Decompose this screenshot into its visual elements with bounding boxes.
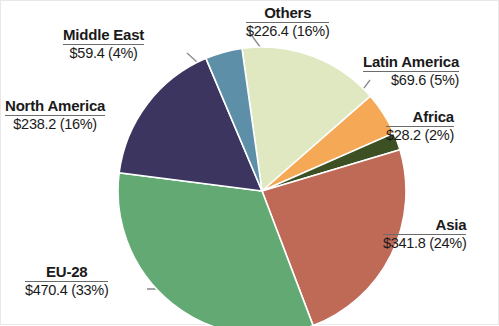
pie-label-latin-america: Latin America $69.6 (5%) xyxy=(363,54,459,89)
pie-label-latin-america-name: Latin America xyxy=(363,54,459,72)
pie-label-middle-east-name: Middle East xyxy=(63,27,144,45)
pie-label-others: Others $226.4 (16%) xyxy=(246,5,329,40)
pie-label-eu-28: EU-28 $470.4 (33%) xyxy=(25,264,108,299)
pie-label-middle-east-value: $59.4 (4%) xyxy=(63,45,144,62)
pie-label-africa: Africa $28.2 (2%) xyxy=(386,109,454,144)
pie-label-eu-28-value: $470.4 (33%) xyxy=(25,282,108,299)
pie-label-asia-value: $341.8 (24%) xyxy=(383,235,466,252)
pie-label-others-value: $226.4 (16%) xyxy=(246,23,329,40)
pie-label-asia-name: Asia xyxy=(383,217,466,235)
pie-label-others-name: Others xyxy=(246,5,329,23)
pie-label-africa-value: $28.2 (2%) xyxy=(386,127,454,144)
pie-label-middle-east: Middle East $59.4 (4%) xyxy=(63,27,144,62)
pie-label-north-america: North America $238.2 (16%) xyxy=(5,98,105,133)
pie-label-africa-name: Africa xyxy=(386,109,454,127)
pie-label-north-america-name: North America xyxy=(5,98,105,116)
pie-label-asia: Asia $341.8 (24%) xyxy=(383,217,466,252)
pie-label-latin-america-value: $69.6 (5%) xyxy=(363,72,459,89)
pie-slices-group xyxy=(118,47,406,326)
pie-label-north-america-value: $238.2 (16%) xyxy=(5,116,105,133)
pie-label-eu-28-name: EU-28 xyxy=(25,264,108,282)
